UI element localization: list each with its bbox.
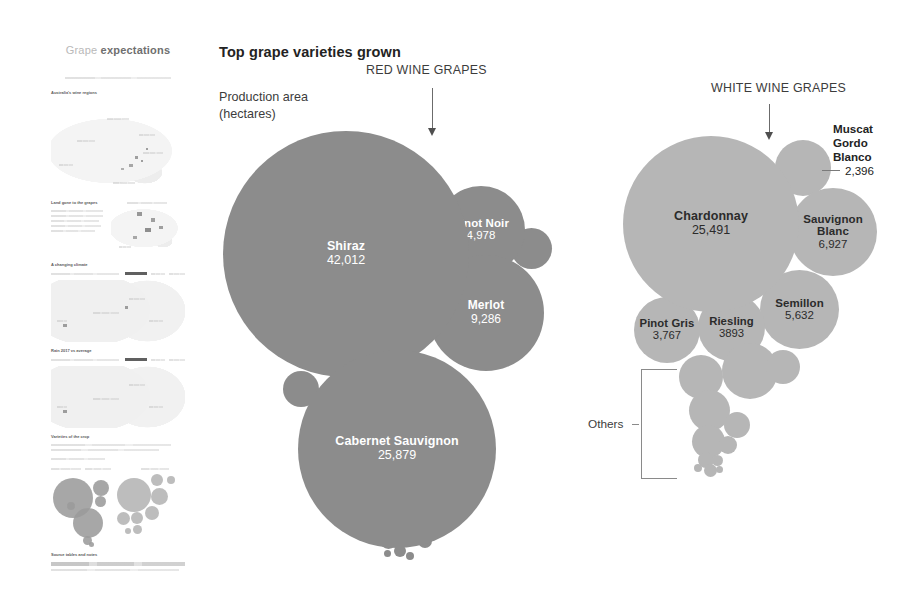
bubble-other-white-5[interactable] [724, 412, 750, 438]
muscat-label-line-3: Blanco [833, 150, 873, 164]
bubble-pinot-gris-label: Pinot Gris [640, 317, 695, 329]
bubble-sauvignon-blanc-label-2: Blanc [817, 225, 849, 237]
bubble-other-white-11[interactable] [694, 464, 702, 472]
others-bracket [641, 369, 677, 479]
bubble-other-red-11[interactable] [406, 552, 414, 560]
bubble-shiraz-value: 42,012 [327, 253, 365, 268]
bubble-chardonnay-value: 25,491 [692, 223, 730, 238]
muscat-label-line-1: Muscat [833, 122, 873, 136]
thumbnail-heading-3: A changing climate [51, 262, 88, 267]
thumbnail-deck-line [65, 77, 171, 79]
thumbnail-heading-4: Rain 2017 vs average [51, 348, 91, 353]
thumbnail-map-4 [51, 366, 185, 428]
group-label-red-wine: RED WINE GRAPES [366, 63, 487, 77]
bubble-other-white-7[interactable] [719, 436, 737, 454]
bubble-other-white-12[interactable] [716, 466, 723, 473]
bubble-other-white-3[interactable] [766, 350, 800, 384]
white-arrow-head [765, 132, 773, 140]
thumbnail-map-1 [51, 100, 185, 198]
thumbnail-map-3 [51, 280, 185, 342]
bubble-chardonnay[interactable]: Chardonnay 25,491 [623, 136, 799, 312]
muscat-label-line-2: Gordo [833, 136, 873, 150]
bubble-semillon-label: Semillon [775, 297, 824, 309]
axis-note-line-1: Production area [219, 89, 308, 106]
bubble-chardonnay-label: Chardonnay [674, 210, 748, 224]
bubble-other-red-12[interactable] [384, 550, 391, 557]
bubble-sauvignon-blanc-label-1: Sauvignon [803, 213, 863, 225]
bubble-riesling-value: 3893 [719, 327, 744, 340]
bubble-cabernet-sauvignon-value: 25,879 [378, 448, 416, 463]
bubble-riesling-label: Riesling [709, 315, 754, 327]
document-page-thumbnail[interactable]: Grape expectations Australia's wine regi… [45, 22, 191, 574]
screenshot-canvas: Grape expectations Australia's wine regi… [0, 0, 921, 595]
thumbnail-map-2 [111, 198, 185, 256]
bubble-semillon-value: 5,632 [785, 309, 814, 323]
thumbnail-title: Grape expectations [45, 44, 191, 56]
bubble-sauvignon-blanc-value: 6,927 [819, 238, 848, 252]
bubble-shiraz-label: Shiraz [327, 240, 365, 254]
bubble-merlot-label: Merlot [468, 299, 505, 312]
bubble-merlot-value: 9,286 [471, 312, 501, 326]
thumbnail-heading-1: Australia's wine regions [51, 90, 97, 95]
muscat-callout-line [822, 170, 840, 171]
others-label: Others [588, 417, 623, 431]
bubble-other-white-10[interactable] [704, 464, 717, 477]
page-title: Top grape varieties grown [219, 44, 401, 60]
axis-note-line-2: (hectares) [219, 106, 308, 123]
group-label-white-wine: WHITE WINE GRAPES [711, 81, 846, 95]
bubble-muscat-gordo-blanco-value: 2,396 [845, 164, 874, 177]
thumbnail-heading-5: Varieties of the crop [51, 434, 89, 439]
bubble-shiraz[interactable]: Shiraz 42,012 [223, 131, 469, 377]
white-arrow-shaft [769, 104, 770, 134]
bubble-muscat-gordo-blanco-label: Muscat Gordo Blanco [833, 122, 873, 164]
axis-note: Production area (hectares) [219, 89, 308, 123]
thumbnail-footer-note: Source tables and notes [51, 552, 97, 557]
red-arrow-shaft [432, 88, 433, 130]
others-tick [632, 424, 639, 425]
bubble-cabernet-sauvignon[interactable]: Cabernet Sauvignon 25,879 [298, 350, 496, 548]
red-arrow-head [428, 128, 436, 136]
bubble-pinot-gris-value: 3,767 [653, 329, 681, 342]
bubble-pinot-noir-value: 4,978 [467, 229, 496, 243]
bubble-cabernet-sauvignon-label: Cabernet Sauvignon [335, 435, 458, 449]
thumbnail-heading-2: Land gone to the grapes [51, 200, 97, 205]
bubble-sauvignon-blanc[interactable]: Sauvignon Blanc 6,927 [789, 188, 877, 276]
